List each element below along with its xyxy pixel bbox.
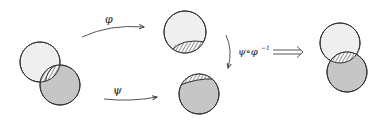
phi-label: φ — [105, 13, 113, 26]
image-psi-disc — [175, 70, 220, 114]
diagram-canvas: φ ψ ψ∘φ −1 — [0, 0, 389, 124]
image-phi-disc — [160, 11, 210, 60]
composition-arrow — [226, 35, 230, 68]
result-discs — [320, 23, 367, 92]
psi-label: ψ — [113, 84, 122, 97]
phi-arrow — [82, 26, 144, 37]
composition-label: ψ∘φ −1 — [238, 44, 270, 57]
source-discs — [20, 42, 80, 105]
inverse-exponent: −1 — [261, 44, 270, 51]
composition-text: ψ∘φ — [238, 46, 258, 57]
psi-arrow — [104, 97, 157, 100]
implies-double-arrow — [273, 47, 303, 58]
